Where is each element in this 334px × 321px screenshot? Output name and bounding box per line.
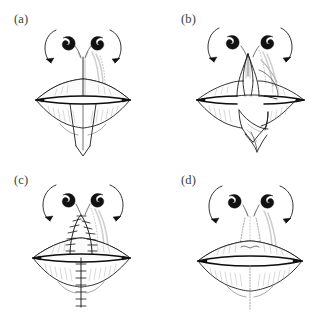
panel-c: (c) bbox=[0, 161, 167, 321]
figure-root: (a) bbox=[0, 0, 334, 321]
panel-b-illustration bbox=[167, 0, 334, 160]
panel-d-illustration bbox=[167, 161, 334, 321]
panel-a-illustration bbox=[0, 0, 167, 160]
panel-d: (d) bbox=[167, 161, 334, 321]
panel-b: (b) bbox=[167, 0, 334, 160]
panel-a: (a) bbox=[0, 0, 167, 160]
panel-c-illustration bbox=[0, 161, 167, 321]
